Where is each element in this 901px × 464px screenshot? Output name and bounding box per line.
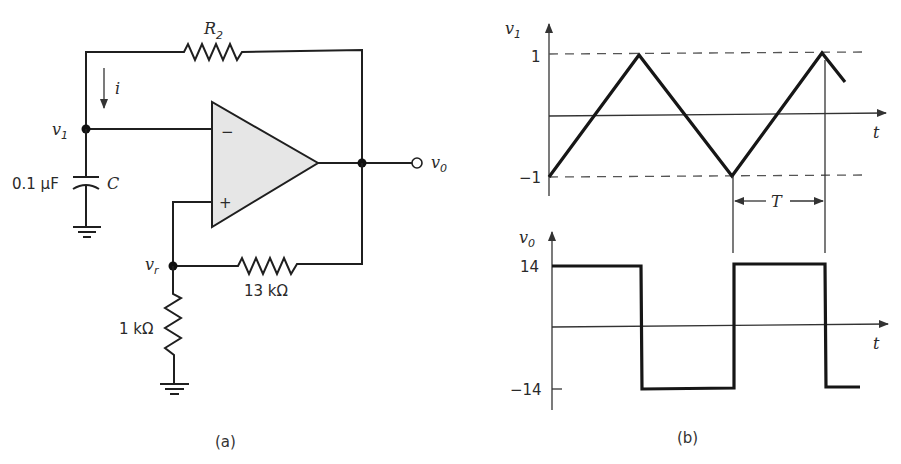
vo-tick-high: 14 — [520, 258, 539, 276]
current-label: i — [115, 79, 120, 98]
ground-icon — [160, 384, 189, 394]
vo-label: v0 — [431, 153, 447, 175]
vo-t-axis — [552, 324, 888, 327]
v1-label: v1 — [52, 120, 68, 142]
noninverting-input-wire — [173, 202, 212, 266]
vo-axis-label: v0 — [519, 228, 535, 250]
v1-axis-label: v1 — [505, 19, 521, 41]
r-1k-resistor — [165, 266, 181, 384]
v1-t-label: t — [873, 123, 880, 142]
r-1k-label: 1 kΩ — [119, 320, 153, 338]
ground-icon — [73, 227, 101, 237]
opamp-plus-sign: + — [219, 194, 232, 212]
period-label: T — [771, 192, 783, 211]
caption-a: (a) — [215, 433, 236, 451]
v1-low-reference — [549, 175, 862, 177]
v1-tick-low: −1 — [519, 169, 541, 187]
capacitor-name-label: C — [107, 174, 119, 193]
vo-t-label: t — [873, 334, 880, 353]
vo-tick-low: −14 — [510, 381, 542, 399]
capacitor-value-label: 0.1 μF — [12, 175, 59, 193]
waveform-vo-plot: v0 14 −14 t (b) — [510, 228, 888, 447]
vr-label: vr — [145, 255, 160, 277]
circuit-schematic: R2 i v1 0.1 μF C − + v0 — [12, 19, 447, 451]
v1-tick-high: 1 — [531, 48, 541, 66]
waveform-v1-plot: v1 1 −1 t T — [505, 19, 886, 253]
v1-high-reference — [549, 52, 862, 54]
r2-label: R2 — [203, 19, 223, 42]
v1-t-axis — [549, 113, 886, 116]
output-terminal — [412, 158, 422, 168]
opamp-minus-sign: − — [221, 123, 234, 141]
figure-canvas: R2 i v1 0.1 μF C − + v0 — [0, 0, 901, 464]
r-13k-label: 13 kΩ — [244, 282, 288, 300]
caption-b: (b) — [677, 429, 698, 447]
